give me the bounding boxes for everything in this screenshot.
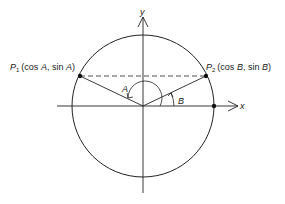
angle-a-arc — [128, 81, 162, 106]
angle-b-arc — [171, 93, 174, 106]
angle-a-label: A — [121, 84, 128, 94]
radius-p1 — [80, 76, 143, 106]
point-one-zero — [212, 104, 216, 108]
unit-circle-diagram: y x P1(cos A, sin A) P2(cos B, sin B) A … — [0, 0, 285, 204]
p2-label: P2(cos B, sin B) — [206, 62, 271, 73]
angle-b-label: B — [178, 96, 184, 106]
point-p1 — [78, 74, 82, 78]
x-axis-label: x — [239, 101, 245, 111]
p1-label: P1(cos A, sin A) — [10, 62, 75, 73]
point-p2 — [204, 74, 208, 78]
y-axis-label: y — [139, 7, 145, 17]
radius-p2 — [143, 76, 206, 106]
